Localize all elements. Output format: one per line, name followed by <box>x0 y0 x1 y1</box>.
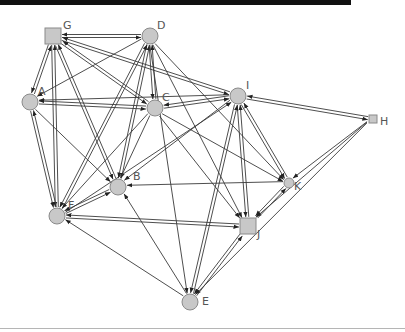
node-label: H <box>380 115 388 128</box>
node-b[interactable]: B <box>110 170 141 195</box>
square-node-icon[interactable] <box>45 28 61 44</box>
nodes-layer: ABCDEFGHIJK <box>22 19 388 310</box>
edges-layer <box>31 35 369 296</box>
edge-f-to-g <box>55 45 59 207</box>
edge-j-to-k <box>258 188 286 218</box>
edge-e-to-f <box>65 220 183 296</box>
edge-c-to-j <box>159 116 239 218</box>
circle-node-icon[interactable] <box>284 178 294 188</box>
edge-f-to-d <box>62 45 147 209</box>
node-label: G <box>63 19 72 32</box>
edge-f-to-a <box>34 110 57 206</box>
node-e[interactable]: E <box>182 294 209 310</box>
edge-e-to-b <box>124 194 186 294</box>
edge-c-to-k <box>162 114 283 182</box>
node-h[interactable]: H <box>369 115 388 128</box>
square-node-icon[interactable] <box>240 218 256 234</box>
edge-i-to-b <box>124 100 230 180</box>
edge-g-to-c <box>61 44 147 104</box>
edge-c-to-a <box>39 101 146 106</box>
node-d[interactable]: D <box>142 19 165 44</box>
circle-node-icon[interactable] <box>49 208 65 224</box>
node-label: D <box>157 19 165 32</box>
node-label: E <box>202 295 209 308</box>
circle-node-icon[interactable] <box>142 28 158 44</box>
edge-e-to-i <box>194 105 238 293</box>
edge-i-to-h <box>247 99 368 120</box>
circle-node-icon[interactable] <box>147 100 163 116</box>
edge-i-to-a <box>39 95 229 100</box>
edge-d-to-k <box>155 44 284 180</box>
edge-j-to-e <box>194 234 240 294</box>
edge-h-to-k <box>293 122 367 179</box>
edge-e-to-j <box>197 236 243 296</box>
circle-node-icon[interactable] <box>230 88 246 104</box>
node-label: C <box>162 91 170 104</box>
node-g[interactable]: G <box>45 19 72 44</box>
square-node-icon[interactable] <box>369 115 377 123</box>
circle-node-icon[interactable] <box>182 294 198 310</box>
edge-k-to-b <box>127 182 283 186</box>
node-i[interactable]: I <box>230 79 249 104</box>
edge-a-to-c <box>39 104 146 109</box>
edge-c-to-f <box>62 114 148 209</box>
circle-node-icon[interactable] <box>110 179 126 195</box>
node-label: I <box>246 79 249 92</box>
edge-h-to-i <box>247 96 368 117</box>
edge-d-to-f <box>60 43 145 207</box>
node-a[interactable]: A <box>22 85 46 110</box>
graph-canvas: ABCDEFGHIJK <box>0 0 405 332</box>
edge-k-to-i <box>244 103 287 177</box>
node-label: F <box>68 199 74 212</box>
node-label: A <box>38 85 46 98</box>
node-c[interactable]: C <box>147 91 170 116</box>
node-label: J <box>256 228 260 241</box>
edge-k-to-j <box>255 186 283 216</box>
edge-d-to-a <box>37 39 141 96</box>
bottom-divider <box>0 328 405 329</box>
node-label: B <box>133 170 141 183</box>
edge-a-to-f <box>31 111 54 207</box>
node-j[interactable]: J <box>240 218 260 241</box>
edge-d-to-e <box>150 45 187 293</box>
edge-a-to-b <box>35 109 110 181</box>
edge-h-to-e <box>195 123 367 295</box>
edge-d-to-b <box>118 44 146 177</box>
edge-i-to-e <box>191 104 235 292</box>
node-label: K <box>294 180 302 193</box>
edge-b-to-d <box>121 45 149 178</box>
circle-node-icon[interactable] <box>22 94 38 110</box>
